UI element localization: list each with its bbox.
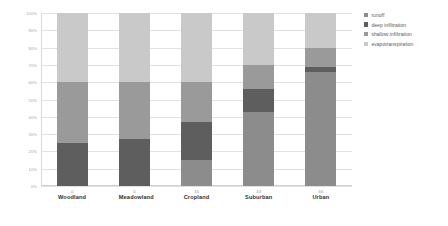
legend-item[interactable]: deep infiltration (364, 22, 448, 28)
legend-item[interactable]: runoff (364, 12, 448, 18)
bar-segment-evapotranspiration[interactable] (119, 13, 150, 82)
y-axis-tick-label: 100% (26, 11, 37, 16)
category-label-wrap: 43Suburban (243, 186, 274, 201)
bar-segment-shallow-infiltration[interactable] (305, 48, 336, 67)
y-axis-tick-label: 0% (31, 184, 37, 189)
bar-segment-shallow-infiltration[interactable] (181, 82, 212, 122)
bar-group[interactable]: 0Woodland (57, 13, 88, 186)
y-axis-tick-label: 90% (29, 28, 38, 33)
bar-segment-evapotranspiration[interactable] (57, 13, 88, 82)
stacked-bar-chart: 100%90%80%70%60%50%40%30%20%10%0% 0Woodl… (0, 0, 448, 226)
bar-segment-evapotranspiration[interactable] (305, 13, 336, 48)
bar-segment-deep-infiltration[interactable] (181, 122, 212, 160)
bar-segment-deep-infiltration[interactable] (57, 143, 88, 186)
bar-segment-runoff[interactable] (243, 112, 274, 186)
category-label-wrap: 0Meadowland (119, 186, 150, 201)
legend-swatch-icon (364, 22, 368, 26)
y-axis-tick-label: 50% (29, 97, 38, 102)
legend-label: evapotranspiration (371, 41, 413, 47)
bar-segment-runoff[interactable] (181, 160, 212, 186)
legend-swatch-icon (364, 13, 368, 17)
x-axis-category-label: Meadowland (119, 194, 150, 201)
y-axis-tick-label: 30% (29, 132, 38, 137)
legend-item[interactable]: shallow infiltration (364, 31, 448, 37)
plot-area: 100%90%80%70%60%50%40%30%20%10%0% 0Woodl… (41, 13, 352, 186)
legend-label: deep infiltration (371, 22, 406, 28)
chart-legend: runoffdeep infiltrationshallow infiltrat… (364, 12, 448, 50)
x-axis-category-label: Cropland (181, 194, 212, 201)
category-label-wrap: 0Woodland (57, 186, 88, 201)
bar-group[interactable]: 66Urban (305, 13, 336, 186)
bar-segment-evapotranspiration[interactable] (181, 13, 212, 82)
y-axis-tick-label: 20% (29, 149, 38, 154)
y-axis-tick-label: 60% (29, 80, 38, 85)
y-axis-tick-label: 40% (29, 114, 38, 119)
bar-segment-deep-infiltration[interactable] (119, 139, 150, 186)
x-axis-category-label: Woodland (57, 194, 88, 201)
bar-segment-shallow-infiltration[interactable] (119, 82, 150, 139)
bar-group[interactable]: 15Cropland (181, 13, 212, 186)
bar-segment-evapotranspiration[interactable] (243, 13, 274, 65)
y-axis-tick-label: 10% (29, 166, 38, 171)
bar-series-container: 0Woodland0Meadowland15Cropland43Suburban… (41, 13, 352, 186)
y-axis-tick-label: 80% (29, 45, 38, 50)
bar-segment-shallow-infiltration[interactable] (243, 65, 274, 89)
legend-label: runoff (371, 12, 384, 18)
category-label-wrap: 15Cropland (181, 186, 212, 201)
bar-segment-runoff[interactable] (305, 72, 336, 186)
legend-swatch-icon (364, 42, 368, 46)
x-axis-category-label: Urban (305, 194, 336, 201)
bar-segment-deep-infiltration[interactable] (243, 89, 274, 111)
legend-swatch-icon (364, 32, 368, 36)
legend-label: shallow infiltration (371, 31, 411, 37)
bar-group[interactable]: 43Suburban (243, 13, 274, 186)
bar-group[interactable]: 0Meadowland (119, 13, 150, 186)
bar-segment-shallow-infiltration[interactable] (57, 82, 88, 143)
legend-item[interactable]: evapotranspiration (364, 41, 448, 47)
category-label-wrap: 66Urban (305, 186, 336, 201)
y-axis-tick-label: 70% (29, 62, 38, 67)
x-axis-category-label: Suburban (243, 194, 274, 201)
